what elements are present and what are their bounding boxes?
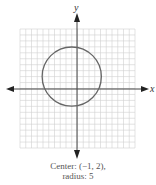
axes: x y bbox=[6, 2, 155, 159]
y-axis-down-arrow-icon bbox=[74, 150, 80, 159]
y-axis-label: y bbox=[73, 2, 79, 13]
caption-center: Center: (−1, 2), bbox=[0, 161, 156, 171]
x-axis-left-arrow-icon bbox=[6, 86, 14, 92]
y-axis-up-arrow-icon bbox=[74, 13, 80, 22]
x-axis-label: x bbox=[149, 83, 155, 94]
caption-radius: radius: 5 bbox=[0, 171, 156, 181]
coordinate-plane: x y bbox=[0, 0, 156, 185]
x-axis-right-arrow-icon bbox=[141, 86, 149, 92]
